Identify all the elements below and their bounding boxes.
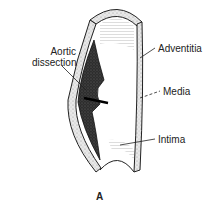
label-adventitia: Adventitia (158, 43, 202, 54)
aortic-dissection-diagram: Aortic dissection Adventitia Media Intim… (0, 0, 208, 203)
label-aortic-line2: dissection (32, 57, 76, 68)
aorta-illustration (0, 0, 208, 203)
label-intima: Intima (158, 134, 185, 145)
label-aortic-dissection: Aortic dissection (32, 46, 76, 68)
panel-label: A (96, 191, 103, 202)
label-aortic-line1: Aortic (50, 46, 76, 57)
label-media: Media (163, 86, 190, 97)
